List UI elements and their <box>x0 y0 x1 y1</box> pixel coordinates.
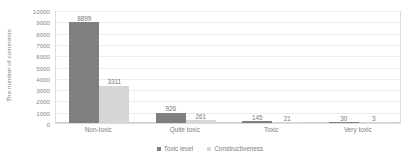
bar-group-bars: 14521 <box>229 12 316 123</box>
bar-group: 14521 <box>229 12 316 123</box>
y-axis-tick-label: 1000 <box>36 109 50 116</box>
y-axis-tick-label: 7000 <box>36 41 50 48</box>
bar-slot: 3 <box>359 12 389 123</box>
y-axis-tick-label: 5000 <box>36 64 50 71</box>
bar[interactable]: 21 <box>272 122 302 123</box>
bar[interactable]: 30 <box>329 122 359 123</box>
bar-group-bars: 926261 <box>143 12 230 123</box>
legend-item[interactable]: Constructiveness <box>207 145 263 152</box>
bar-chart: The number of comments 10000900080007000… <box>0 0 420 163</box>
bar[interactable]: 926 <box>156 113 186 123</box>
y-axis-tick-label: 0 <box>47 121 50 128</box>
bar-slot: 3311 <box>99 12 129 123</box>
y-axis-tick-label: 4000 <box>36 75 50 82</box>
y-axis-tick-label: 9000 <box>36 19 50 26</box>
y-axis-tick-label: 8000 <box>36 30 50 37</box>
bar-slot: 30 <box>329 12 359 123</box>
bar-value-label: 3311 <box>107 78 121 85</box>
y-axis-tick-labels: 1000090008000700060005000400030002000100… <box>16 11 53 124</box>
x-axis-category-label: Very toxic <box>344 126 372 133</box>
bar-slot: 8899 <box>69 12 99 123</box>
bar-group-bars: 303 <box>316 12 403 123</box>
chart-legend: Toxic levelConstructiveness <box>0 145 420 152</box>
bar-value-label: 8899 <box>77 15 91 22</box>
bar-value-label: 145 <box>252 114 263 121</box>
bar-value-label: 261 <box>195 113 206 120</box>
bar[interactable]: 3311 <box>99 86 129 123</box>
legend-item[interactable]: Toxic level <box>157 145 193 152</box>
bar[interactable]: 261 <box>186 120 216 123</box>
y-axis-tick-label: 3000 <box>36 87 50 94</box>
y-axis-tick-label: 10000 <box>33 8 50 15</box>
y-axis-title: The number of comments <box>0 0 16 130</box>
x-axis-category-label: Quite toxic <box>170 126 200 133</box>
legend-swatch-icon <box>157 147 161 151</box>
y-axis-tick-label: 6000 <box>36 53 50 60</box>
x-axis-category-label: Toxic <box>264 126 279 133</box>
bar-group-bars: 88993311 <box>56 12 143 123</box>
y-axis-tick-label: 2000 <box>36 98 50 105</box>
legend-label: Toxic level <box>164 145 193 152</box>
bar-slot: 145 <box>242 12 272 123</box>
bar-value-label: 21 <box>284 115 291 122</box>
bar[interactable]: 145 <box>242 121 272 123</box>
bar-group: 88993311 <box>56 12 143 123</box>
y-axis-title-text: The number of comments <box>5 29 12 102</box>
legend-label: Constructiveness <box>214 145 263 152</box>
bar-value-label: 926 <box>165 105 176 112</box>
bar-slot: 926 <box>156 12 186 123</box>
plot-area: 8899331192626114521303 <box>55 11 401 124</box>
bar-value-label: 30 <box>340 115 347 122</box>
bar-slot: 261 <box>186 12 216 123</box>
bar[interactable]: 3 <box>359 122 389 123</box>
bar[interactable]: 8899 <box>69 22 99 123</box>
legend-swatch-icon <box>207 147 211 151</box>
bar-group: 926261 <box>143 12 230 123</box>
x-axis-category-labels: Non-toxicQuite toxicToxicVery toxic <box>55 126 401 138</box>
bar-group: 303 <box>316 12 403 123</box>
x-axis-category-label: Non-toxic <box>85 126 112 133</box>
bar-value-label: 3 <box>372 115 376 122</box>
bar-slot: 21 <box>272 12 302 123</box>
